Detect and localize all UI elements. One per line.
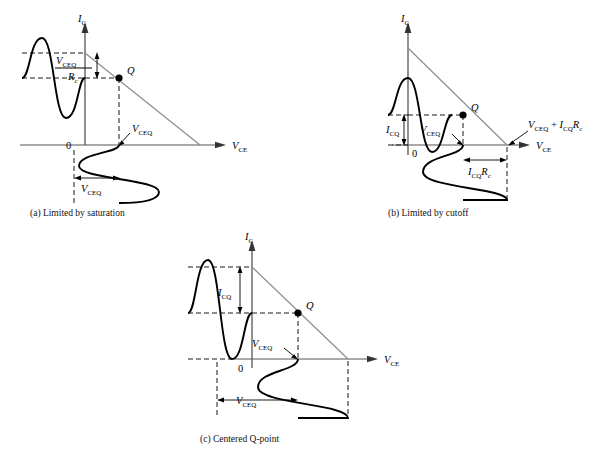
icq-dimension-label: ICQ: [385, 124, 399, 138]
origin-label: 0: [238, 363, 243, 374]
vce-axis-label: VCE: [232, 140, 247, 154]
panel-a-limited-by-saturation: VCEQ Rc Q 0 IC VCE VCEQ VCEQ (a) Limi: [0, 0, 300, 230]
icqrc-dimension-label: ICQRc: [467, 166, 491, 180]
panel-c-caption: (c) Centered Q-point: [200, 434, 279, 444]
vce-axis-arrowhead: [367, 356, 378, 362]
panel-b-limited-by-cutoff: ICQ Q 0 IC VCE VCEQ VCEQ + ICQRc: [300, 0, 602, 230]
panel-b-graph: ICQ Q 0 IC VCE VCEQ VCEQ + ICQRc: [300, 0, 602, 212]
q-point-marker: [115, 74, 122, 81]
q-point-label: Q: [306, 300, 314, 311]
panel-a-caption: (a) Limited by saturation: [30, 208, 125, 218]
q-point-label: Q: [127, 65, 135, 76]
icqrc-dimension: ICQRc: [463, 158, 507, 180]
vce-axis-arrowhead: [519, 142, 530, 148]
vce-axis-label: VCE: [536, 140, 551, 154]
vce-axis-label: VCE: [384, 354, 399, 368]
ic-axis-label: IC: [244, 231, 254, 245]
ic-axis-label: IC: [77, 13, 87, 27]
q-point-marker: [459, 111, 466, 118]
vceq-callout: VCEQ: [252, 338, 298, 360]
vceq-callout-label: VCEQ: [132, 123, 152, 137]
origin-label: 0: [412, 148, 417, 159]
icq-dimension: ICQ: [217, 266, 242, 314]
ic-axis: [405, 22, 412, 155]
panel-a-graph: VCEQ Rc Q 0 IC VCE VCEQ VCEQ: [0, 0, 300, 212]
vceq-dimension: VCEQ: [217, 395, 298, 409]
ic-axis-label: IC: [400, 13, 410, 27]
q-point-label: Q: [471, 102, 479, 113]
vceq-callout-label: VCEQ: [252, 338, 272, 352]
icq-dimension: ICQ: [385, 114, 406, 146]
label-vceq-over-rc: VCEQ Rc: [55, 55, 92, 85]
ic-axis: [82, 22, 89, 145]
vceq-dimension-label: VCEQ: [81, 183, 101, 197]
vceq-callout: VCEQ: [118, 123, 152, 147]
vceq-over-rc-denominator: Rc: [67, 71, 78, 85]
vceq-plus-icqrc-label: VCEQ + ICQRc: [528, 119, 582, 133]
vceq-dimension: VCEQ: [74, 176, 120, 197]
panel-c-graph: ICQ Q 0 IC VCE VCEQ VCEQ: [140, 228, 470, 433]
vceq-over-rc-dimension-arrow: [95, 52, 100, 79]
input-current-waveform: [188, 260, 252, 359]
q-point-marker: [294, 309, 301, 316]
vceq-dimension-label: VCEQ: [236, 395, 256, 409]
panel-c-centered-q-point: ICQ Q 0 IC VCE VCEQ VCEQ (c) Centered Q-…: [140, 228, 470, 462]
vce-axis-arrowhead: [215, 142, 226, 148]
vceq-plus-icqrc-callout: VCEQ + ICQRc: [508, 119, 582, 146]
vce-axis: [232, 356, 378, 362]
origin-label: 0: [66, 140, 71, 151]
panel-b-caption: (b) Limited by cutoff: [388, 208, 468, 218]
output-voltage-waveform: [258, 359, 348, 418]
output-voltage-waveform: [423, 145, 507, 200]
vceq-over-rc-numerator: VCEQ: [56, 55, 76, 69]
